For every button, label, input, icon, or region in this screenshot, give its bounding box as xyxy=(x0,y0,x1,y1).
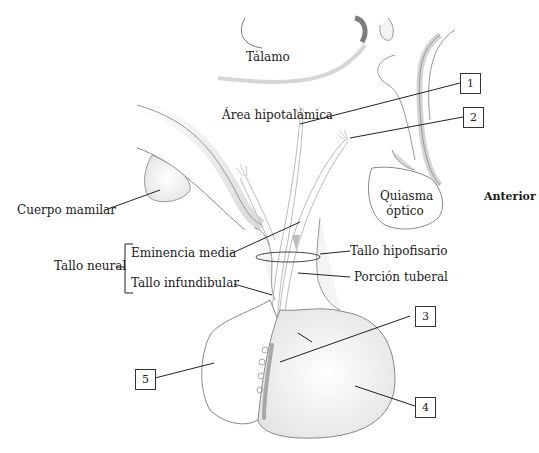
optic-chiasm-label-line1: Quiasma xyxy=(380,189,430,203)
lamina-terminalis xyxy=(378,30,455,185)
callout-4: 4 xyxy=(415,397,436,418)
callout-3: 3 xyxy=(415,306,436,327)
callout-5: 5 xyxy=(135,369,156,390)
thalamus-label: Tálamo xyxy=(246,50,290,64)
anterior-orientation-label: Anterior xyxy=(484,190,536,204)
tuberal-portion-label: Porción tuberal xyxy=(354,270,448,284)
mammillary-body-label: Cuerpo mamilar xyxy=(17,203,116,217)
hypophyseal-stalk-label: Tallo hipofisario xyxy=(350,244,448,258)
hypothalamic-area-label: Área hipotalámica xyxy=(222,108,333,122)
median-eminence-label: Eminencia media xyxy=(131,246,236,260)
thalamus-shape xyxy=(218,18,393,82)
callout-1: 1 xyxy=(460,73,481,94)
pituitary-anatomy-illustration xyxy=(0,0,539,453)
neural-stalk-label: Tallo neural xyxy=(54,259,126,273)
infundibular-stem-label: Tallo infundibular xyxy=(131,276,239,290)
callout-2: 2 xyxy=(463,107,484,128)
mammillary-body-shape xyxy=(145,155,191,202)
pituitary-stalk-shape xyxy=(254,218,340,310)
optic-chiasm-label-line2: óptico xyxy=(380,204,430,218)
